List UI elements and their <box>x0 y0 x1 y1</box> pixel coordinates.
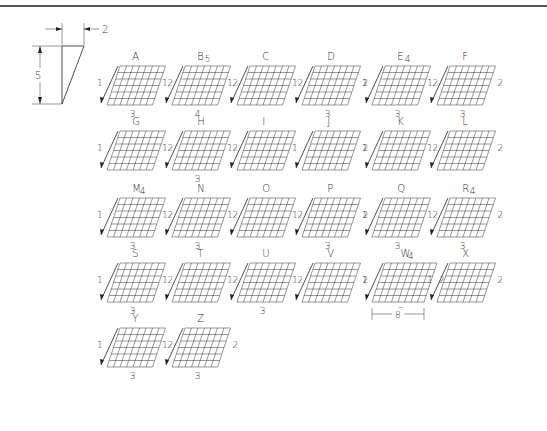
stroke-number: 1 <box>362 210 368 220</box>
stroke-number: 5 <box>205 54 211 64</box>
stroke-number: 2 <box>298 78 304 88</box>
stroke-number: 1 <box>427 143 433 153</box>
height-label: 5 <box>35 70 41 81</box>
stroke-number: 1 <box>97 275 103 285</box>
stroke-number: 2 <box>498 78 504 88</box>
letter-label: P <box>327 183 333 194</box>
arrowhead <box>100 294 104 300</box>
letter-v: V12 <box>292 248 368 302</box>
stroke-number: 2 <box>168 275 174 285</box>
stroke-number: 2 <box>168 78 174 88</box>
stroke-number: 1 <box>292 143 298 153</box>
stroke-number: 2 <box>298 210 304 220</box>
stroke-number: 3 <box>130 371 136 381</box>
letter-label: Z <box>197 313 204 324</box>
stroke-number: 1 <box>97 340 103 350</box>
stroke-number: 1 <box>97 78 103 88</box>
stroke-number: 1 <box>427 78 433 88</box>
letter-label: L <box>462 116 468 127</box>
letter-label: O <box>262 183 270 194</box>
stroke-number: 2 <box>233 78 239 88</box>
letter-l: L12 <box>427 116 503 170</box>
arrowhead <box>430 229 434 235</box>
stroke-number: 2 <box>233 210 239 220</box>
letter-label: E <box>397 51 403 62</box>
arrowhead <box>165 229 169 235</box>
arrowhead <box>365 97 369 103</box>
stroke-number: 3 <box>195 371 201 381</box>
letter-label: F <box>462 51 468 62</box>
arrowhead <box>430 162 434 168</box>
letter-r: R1234 <box>427 183 503 251</box>
arrowhead <box>230 97 234 103</box>
stroke-number: 4 <box>470 186 476 196</box>
stroke-number: 2 <box>168 210 174 220</box>
letter-label: X <box>462 248 469 259</box>
arrowhead <box>295 294 299 300</box>
stroke-number: 2 <box>233 143 239 153</box>
stroke-number: 1 <box>292 78 298 88</box>
arrowhead <box>165 294 169 300</box>
slant-edge <box>62 46 84 104</box>
stroke-number: 2 <box>233 275 239 285</box>
arrowhead <box>165 359 169 365</box>
arrowhead <box>365 229 369 235</box>
stroke-number: 1 <box>292 210 298 220</box>
letter-label: N <box>197 183 204 194</box>
stroke-number: 1 <box>362 143 368 153</box>
letter-label: A <box>132 51 139 62</box>
letter-label: T <box>197 248 203 259</box>
stroke-number: 1 <box>162 78 168 88</box>
letter-d: D123 <box>292 51 368 119</box>
arrowhead <box>295 97 299 103</box>
lettering-diagram: 2 5 A123B1245C12D123E1234F123G12H123I1J1… <box>0 0 547 431</box>
letter-p: P123 <box>292 183 368 251</box>
stroke-number: 2 <box>433 143 439 153</box>
slant-guide: 2 5 <box>32 23 108 104</box>
letter-grids: A123B1245C12D123E1234F123G12H123I1J12K12… <box>97 51 503 381</box>
stroke-number: 1 <box>162 275 168 285</box>
stroke-number: 1 <box>227 210 233 220</box>
stroke-number: 1 <box>292 275 298 285</box>
letter-label: J <box>327 116 330 127</box>
arrowhead <box>38 46 42 53</box>
stroke-number: 1 <box>227 78 233 88</box>
arrowhead <box>56 27 62 31</box>
letter-label: B <box>197 51 204 62</box>
arrowhead <box>230 229 234 235</box>
stroke-number: 4 <box>140 186 146 196</box>
arrowhead <box>365 294 369 300</box>
letter-label: Y <box>132 313 138 324</box>
letter-j: J12 <box>292 116 368 170</box>
arrowhead <box>100 229 104 235</box>
arrowhead <box>430 294 434 300</box>
stroke-number: 2 <box>498 143 504 153</box>
stroke-number: 1 <box>427 210 433 220</box>
stroke-number: 1 <box>162 143 168 153</box>
offset-label: 2 <box>102 24 108 35</box>
stroke-number: 1 <box>227 275 233 285</box>
letter-label: D <box>327 51 335 62</box>
stroke-number: 2 <box>168 340 174 350</box>
arrowhead <box>430 97 434 103</box>
arrowhead <box>295 229 299 235</box>
letter-z: Z123 <box>162 313 238 381</box>
letter-label: I <box>262 116 265 127</box>
arrowhead <box>38 97 42 104</box>
stroke-number: 2 <box>168 143 174 153</box>
letter-f: F123 <box>427 51 503 119</box>
letter-label: G <box>132 116 140 127</box>
stroke-number: 1 <box>362 78 368 88</box>
stroke-number: 2 <box>433 210 439 220</box>
stroke-number: 4 <box>408 251 414 261</box>
stroke-number: 3 <box>260 306 266 316</box>
stroke-number: 1 <box>427 275 433 285</box>
arrowhead <box>365 162 369 168</box>
arrowhead <box>165 162 169 168</box>
width-label: 8 <box>395 310 401 320</box>
letter-label: Q <box>397 183 405 194</box>
stroke-number: 1 <box>362 275 368 285</box>
arrowhead <box>100 97 104 103</box>
stroke-number: 1 <box>227 143 233 153</box>
arrowhead <box>230 162 234 168</box>
